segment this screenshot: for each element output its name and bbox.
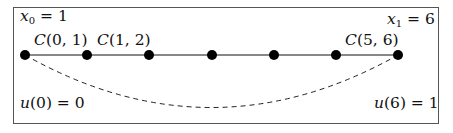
c01-fn: C [34, 31, 46, 49]
node-1 [82, 50, 92, 60]
node-4 [269, 50, 279, 60]
node-6 [393, 50, 403, 60]
label-c56: C(5, 6) [345, 33, 399, 49]
x1-value: = 6 [402, 10, 435, 28]
node-0 [20, 50, 30, 60]
chain-diagram [0, 0, 453, 133]
node-3 [207, 50, 217, 60]
c56-fn: C [345, 31, 357, 49]
c01-args: (0, 1) [46, 31, 88, 49]
label-x0: x0 = 1 [20, 9, 68, 26]
c12-args: (1, 2) [109, 31, 151, 49]
label-x1: x1 = 6 [387, 12, 435, 29]
u6-args: (6) = 1 [384, 94, 439, 112]
u6-fn: u [374, 94, 384, 112]
x0-value: = 1 [35, 7, 68, 25]
node-5 [331, 50, 341, 60]
u0-args: (0) = 0 [30, 94, 85, 112]
label-u6: u(6) = 1 [374, 96, 439, 112]
c56-args: (5, 6) [357, 31, 399, 49]
label-u0: u(0) = 0 [20, 96, 85, 112]
x1-var: x [387, 10, 396, 28]
label-c01: C(0, 1) [34, 33, 88, 49]
c12-fn: C [97, 31, 109, 49]
node-2 [144, 50, 154, 60]
label-c12: C(1, 2) [97, 33, 151, 49]
x0-var: x [20, 7, 29, 25]
u0-fn: u [20, 94, 30, 112]
